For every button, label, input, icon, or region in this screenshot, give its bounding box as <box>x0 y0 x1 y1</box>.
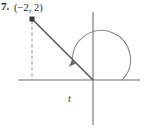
trig-angle-figure: 7. (−2, 2) t <box>0 0 144 131</box>
point-marker <box>30 17 35 22</box>
figure-canvas <box>0 0 144 131</box>
terminal-ray <box>33 20 93 80</box>
angle-arc <box>72 30 130 80</box>
